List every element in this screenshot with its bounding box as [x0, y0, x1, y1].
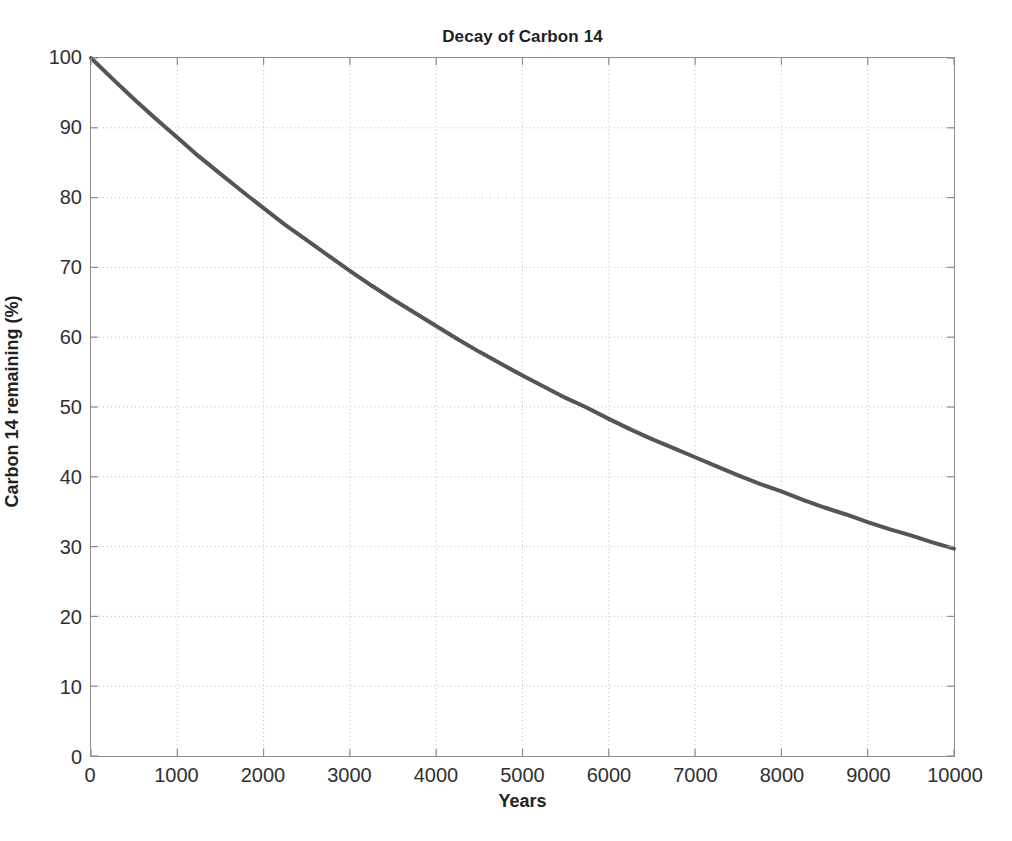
x-axis-title: Years	[90, 791, 955, 812]
y-tick-label: 30	[8, 537, 82, 557]
y-tick-label: 80	[8, 187, 82, 207]
y-axis-title-container: Carbon 14 remaining (%)	[0, 0, 1, 1]
x-tick-label: 10000	[895, 764, 1012, 786]
x-axis-tick-labels: 0100020003000400050006000700080009000100…	[90, 764, 955, 790]
plot-area	[90, 57, 955, 757]
y-tick-label: 70	[8, 257, 82, 277]
figure-canvas: Decay of Carbon 14 010203040506070809010…	[0, 0, 1012, 841]
axis-tick-marks	[91, 58, 954, 756]
y-tick-label: 20	[8, 607, 82, 627]
y-tick-label: 10	[8, 677, 82, 697]
y-tick-label: 100	[8, 47, 82, 67]
y-tick-label: 90	[8, 117, 82, 137]
y-axis-title: Carbon 14 remaining (%)	[2, 328, 23, 508]
chart-title: Decay of Carbon 14	[90, 27, 955, 47]
